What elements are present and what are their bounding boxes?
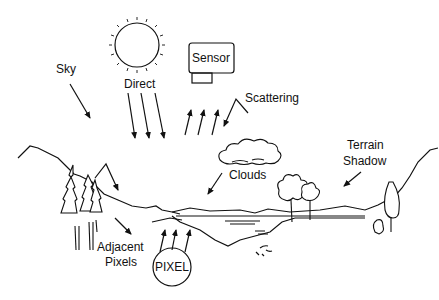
label-pixel: PIXEL — [155, 261, 189, 274]
label-pixels: Pixels — [105, 256, 137, 269]
label-direct: Direct — [124, 78, 155, 91]
shore-trees — [278, 175, 320, 222]
sky-arrow — [70, 84, 90, 118]
label-terrain-shadow-1: Terrain — [347, 139, 384, 152]
label-sensor: Sensor — [192, 52, 230, 65]
label-sky: Sky — [56, 63, 76, 76]
sun-icon — [109, 17, 165, 73]
clouds-arrow — [208, 173, 222, 194]
upwelling-arrows — [185, 110, 218, 135]
label-adjacent: Adjacent — [97, 241, 144, 254]
adjacent-reflect-arrow — [95, 164, 118, 190]
radiation-paths-diagram: Sky Direct Sensor Scattering Terrain Sha… — [0, 0, 439, 300]
direct-arrows — [128, 93, 164, 138]
label-scattering: Scattering — [245, 92, 299, 105]
terrain-shadow-arrow — [344, 172, 361, 186]
adjacent-pixels-arrow — [115, 218, 131, 234]
clouds-icon — [219, 139, 281, 164]
label-clouds: Clouds — [229, 169, 266, 182]
label-terrain-shadow-2: Shadow — [343, 155, 386, 168]
right-tree — [373, 182, 399, 234]
